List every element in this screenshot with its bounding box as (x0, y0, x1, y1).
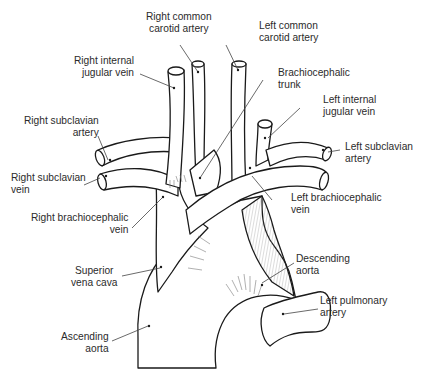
left-common-carotid-shape (231, 64, 246, 192)
label-superior-vena-cava: Superior vena cava (71, 265, 117, 289)
label-descending-aorta: Descending aorta (296, 253, 350, 277)
label-ascending-aorta: Ascending aorta (61, 331, 109, 355)
label-right-internal-jugular-vein: Right internal jugular vein (74, 55, 134, 79)
label-left-pulmonary-artery: Left pulmonary artery (320, 295, 387, 319)
label-left-brachiocephalic-vein: Left brachiocephalic vein (291, 192, 382, 216)
label-right-subclavian-artery: Right subclavian artery (24, 115, 99, 139)
label-left-common-carotid-artery: Left common carotid artery (259, 20, 318, 44)
label-left-internal-jugular-vein: Left internal jugular vein (323, 94, 376, 118)
left-subclavian-artery-shape (266, 142, 328, 166)
label-left-subclavian-artery: Left subclavian artery (345, 141, 413, 165)
label-brachiocephalic-trunk: Brachiocephalic trunk (278, 67, 350, 91)
vessel-diagram: Right common carotid artery Left common … (0, 0, 426, 376)
label-right-common-carotid-artery: Right common carotid artery (146, 11, 212, 35)
right-internal-jugular-vein-shape (166, 70, 185, 188)
right-subclavian-artery-shape (98, 138, 176, 167)
label-right-subclavian-vein: Right subclavian vein (11, 172, 86, 196)
label-right-brachiocephalic-vein: Right brachiocephalic vein (31, 212, 128, 236)
